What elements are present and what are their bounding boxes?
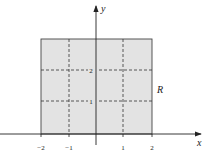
rectangle-region-diagram: y x R −2 −1 1 2 1 2 [0, 0, 209, 160]
region-r [41, 39, 152, 134]
y-tick-label: 2 [89, 67, 93, 75]
x-tick-label: −2 [37, 144, 45, 152]
y-axis-label: y [100, 3, 106, 14]
y-tick-label: 1 [89, 98, 93, 106]
x-tick-label: 2 [150, 144, 154, 152]
x-axis-label: x [196, 137, 202, 148]
region-label: R [156, 84, 163, 95]
x-tick-label: −1 [65, 144, 73, 152]
x-tick-label: 1 [121, 144, 125, 152]
